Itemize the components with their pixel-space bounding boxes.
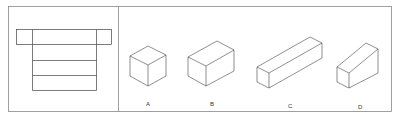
net-top-strip (17, 30, 112, 45)
net-diagram (17, 30, 112, 91)
option-d-wedge[interactable] (337, 43, 378, 88)
outer-frame (9, 7, 392, 112)
option-d-label: D (358, 104, 363, 110)
option-c-label: C (288, 103, 293, 109)
option-a-label: A (146, 101, 150, 107)
option-a-cube[interactable] (130, 46, 166, 86)
option-c-prism[interactable] (257, 37, 322, 88)
option-b-box[interactable] (188, 41, 234, 86)
option-b-label: B (210, 101, 214, 107)
figure-canvas: A B C D (0, 0, 398, 121)
